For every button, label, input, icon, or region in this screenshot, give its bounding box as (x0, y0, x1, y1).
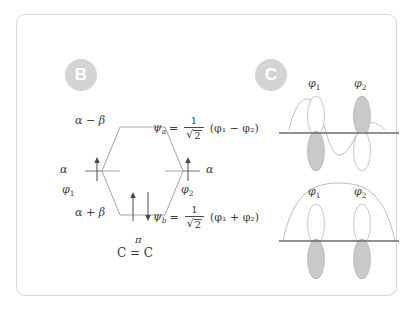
caption-phi2-top: φ2 (354, 77, 366, 92)
phi2-upper-lobe-bottom (354, 204, 371, 244)
caption-phi1-top: φ1 (308, 77, 320, 92)
phi1-lower-lobe-top (308, 131, 325, 171)
phi1-lower-lobe-bottom (308, 239, 325, 279)
bonding-orbital-diagram (279, 183, 399, 279)
phi1-upper-lobe-bottom (308, 204, 325, 244)
antibonding-orbital-diagram (279, 96, 399, 171)
phi2-upper-lobe-top (354, 96, 371, 136)
panel-c-graphics (17, 15, 415, 316)
caption-phi1-bottom: φ1 (308, 185, 320, 200)
phi2-lower-lobe-bottom (354, 239, 371, 279)
caption-phi2-bottom: φ2 (354, 185, 366, 200)
bonding-wave-curve (283, 183, 395, 241)
diagram-card: B (16, 14, 397, 296)
phi2-lower-lobe-top (354, 131, 371, 171)
phi1-upper-lobe-top (308, 96, 325, 136)
